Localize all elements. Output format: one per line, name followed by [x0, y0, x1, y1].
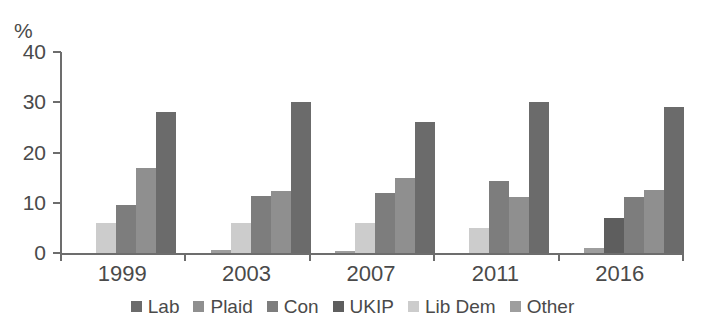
legend-swatch-icon [131, 301, 142, 312]
legend-label: Other [527, 297, 575, 316]
y-axis-unit-label: % [14, 20, 33, 41]
x-axis-tick [60, 253, 62, 261]
legend-item-con[interactable]: Con [267, 297, 319, 316]
legend-item-lab[interactable]: Lab [131, 297, 180, 316]
bar [375, 193, 395, 253]
bar [604, 218, 624, 253]
x-axis-category-label: 2011 [433, 262, 557, 286]
x-axis-category-label: 2003 [184, 262, 308, 286]
legend-label: Lib Dem [425, 297, 496, 316]
bar-chart: % 010203040 19992003200720112016 LabPlai… [0, 0, 705, 326]
bar-group [433, 52, 557, 253]
bar-group [60, 52, 184, 253]
x-axis-category-label: 2016 [558, 262, 682, 286]
bar [251, 196, 271, 253]
bar [644, 190, 664, 253]
x-axis-category-label: 2007 [309, 262, 433, 286]
plot-area [60, 52, 682, 253]
y-axis-tick-label: 10 [0, 192, 46, 213]
bar [529, 102, 549, 253]
legend-label: Lab [148, 297, 180, 316]
bar [624, 197, 644, 253]
legend-label: UKIP [350, 297, 394, 316]
bar [156, 112, 176, 253]
bar [584, 248, 604, 253]
x-axis-line [60, 253, 684, 255]
bar [489, 181, 509, 253]
legend-item-plaid[interactable]: Plaid [193, 297, 252, 316]
legend-swatch-icon [510, 301, 521, 312]
legend-label: Con [284, 297, 319, 316]
x-axis-tick [558, 253, 560, 261]
legend-item-lib-dem[interactable]: Lib Dem [408, 297, 496, 316]
bar [211, 250, 231, 253]
x-axis-tick [433, 253, 435, 261]
legend-swatch-icon [267, 301, 278, 312]
bar [664, 107, 684, 253]
legend-label: Plaid [210, 297, 252, 316]
bar-group [558, 52, 682, 253]
bar-group [309, 52, 433, 253]
legend-item-other[interactable]: Other [510, 297, 575, 316]
legend-item-ukip[interactable]: UKIP [333, 297, 394, 316]
y-axis-tick-label: 20 [0, 142, 46, 163]
chart-legend: LabPlaidConUKIPLib DemOther [0, 297, 705, 316]
bar [271, 191, 291, 253]
bar [469, 228, 489, 253]
legend-swatch-icon [193, 301, 204, 312]
bar [136, 168, 156, 253]
x-axis-category-label: 1999 [60, 262, 184, 286]
x-axis-tick [184, 253, 186, 261]
legend-swatch-icon [408, 301, 419, 312]
legend-swatch-icon [333, 301, 344, 312]
bar [96, 223, 116, 253]
bar [335, 251, 355, 254]
bar [509, 197, 529, 253]
bar [395, 178, 415, 253]
bar-group [184, 52, 308, 253]
x-axis-tick [682, 253, 684, 261]
y-axis-tick-label: 30 [0, 91, 46, 112]
y-axis-tick-label: 40 [0, 41, 46, 62]
bar [415, 122, 435, 253]
y-axis-tick-label: 0 [0, 242, 46, 263]
bar [116, 205, 136, 253]
bar [231, 223, 251, 253]
bar [355, 223, 375, 253]
x-axis-tick [309, 253, 311, 261]
bar [291, 102, 311, 253]
